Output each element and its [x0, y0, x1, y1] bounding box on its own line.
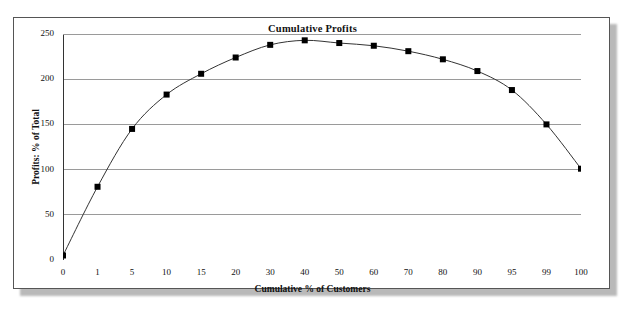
- chart-title: Cumulative Profits: [14, 23, 611, 34]
- data-point-marker[interactable]: [543, 121, 549, 127]
- data-point-marker[interactable]: [474, 68, 480, 74]
- data-point-marker[interactable]: [233, 55, 239, 61]
- x-axis-tick-label: 100: [566, 268, 596, 277]
- x-axis-tick-label: 95: [497, 268, 527, 277]
- x-axis-tick-label: 60: [359, 268, 389, 277]
- y-axis-tick-label: 250: [20, 29, 54, 38]
- x-axis-tick-label: 40: [290, 268, 320, 277]
- gridlines: [63, 34, 581, 215]
- data-point-marker[interactable]: [440, 56, 446, 62]
- figure-frame: Cumulative Profits Profits: % of Total 0…: [13, 17, 610, 289]
- x-axis-tick-label: 15: [186, 268, 216, 277]
- data-point-marker[interactable]: [63, 252, 66, 258]
- x-axis-tick-label: 5: [117, 268, 147, 277]
- data-point-marker[interactable]: [164, 92, 170, 98]
- y-axis-tick-label: 150: [20, 119, 54, 128]
- data-point-marker[interactable]: [371, 43, 377, 49]
- y-axis-tick-label: 0: [20, 255, 54, 264]
- data-point-marker[interactable]: [405, 48, 411, 54]
- x-axis-tick-label: 30: [255, 268, 285, 277]
- data-point-marker[interactable]: [578, 166, 581, 172]
- figure-root: Cumulative Profits Profits: % of Total 0…: [0, 0, 623, 320]
- y-axis-tick-label: 200: [20, 74, 54, 83]
- data-point-marker[interactable]: [129, 126, 135, 132]
- x-axis-tick-label: 70: [393, 268, 423, 277]
- data-point-marker[interactable]: [198, 71, 204, 77]
- axis-lines: [63, 34, 581, 260]
- x-axis-tick-label: 90: [462, 268, 492, 277]
- y-axis-tick-label: 100: [20, 165, 54, 174]
- x-axis-tick-label: 80: [428, 268, 458, 277]
- data-point-marker[interactable]: [302, 37, 308, 43]
- x-axis-tick-label: 1: [83, 268, 113, 277]
- x-axis-title: Cumulative % of Customers: [14, 284, 611, 294]
- plot-canvas: [63, 34, 581, 260]
- x-axis-tick-label: 10: [152, 268, 182, 277]
- x-axis-tick-label: 20: [221, 268, 251, 277]
- y-axis-tick-label: 50: [20, 210, 54, 219]
- x-axis-tick-label: 50: [324, 268, 354, 277]
- series-markers: [63, 37, 581, 258]
- data-point-marker[interactable]: [267, 42, 273, 48]
- data-point-marker[interactable]: [336, 40, 342, 46]
- x-axis-tick-label: 99: [531, 268, 561, 277]
- y-axis-title: Profits: % of Total: [31, 82, 41, 212]
- data-point-marker[interactable]: [95, 184, 101, 190]
- series-line: [63, 40, 581, 255]
- data-point-marker[interactable]: [509, 87, 515, 93]
- x-axis-tick-label: 0: [48, 268, 78, 277]
- plot-area: 050100150200250 015101520304050607080909…: [63, 34, 581, 260]
